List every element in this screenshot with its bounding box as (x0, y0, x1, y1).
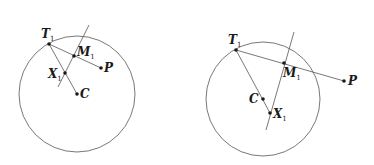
point-C-right (261, 97, 265, 101)
figure-right: T1 M1 P X1 C (206, 32, 358, 156)
label-X1-left: X1 (47, 67, 62, 83)
point-M1-left (72, 54, 76, 58)
geometry-diagram: T1 M1 P X1 C T1 M1 P X1 C (0, 0, 374, 165)
label-P-left: P (103, 61, 114, 75)
point-P-right (342, 79, 346, 83)
label-M1-left: M1 (76, 45, 95, 61)
label-M1-right: M1 (282, 66, 301, 82)
point-P-left (99, 66, 103, 70)
point-M1-right (282, 61, 286, 65)
label-C-right: C (249, 92, 259, 106)
point-X1-right (268, 111, 272, 115)
figure-left: T1 M1 P X1 C (19, 25, 135, 152)
point-X1-left (63, 71, 67, 75)
label-C-left: C (80, 87, 90, 101)
label-T1-left: T1 (41, 27, 54, 43)
label-T1-right: T1 (228, 33, 241, 49)
point-C-left (75, 92, 79, 96)
label-X1-right: X1 (272, 107, 287, 123)
label-P-right: P (347, 74, 358, 88)
